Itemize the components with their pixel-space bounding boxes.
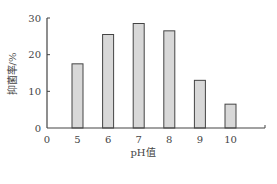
y-axis-label: 抑菌率/% (6, 53, 18, 96)
x-tick-label: 8 (166, 134, 172, 145)
bar-ph-5 (72, 64, 83, 128)
bar-ph-7 (133, 24, 144, 129)
x-axis-label: pH值 (130, 146, 155, 158)
y-axis: 0102030 (28, 13, 50, 134)
x-tick-label: 0 (44, 134, 50, 145)
bar-ph-9 (194, 80, 205, 128)
plot-area (72, 24, 236, 129)
bar-ph-8 (164, 31, 175, 128)
y-tick-label: 10 (28, 86, 41, 97)
x-tick-label: 5 (74, 134, 80, 145)
bar-ph-6 (103, 35, 114, 129)
bar-ph-10 (225, 104, 236, 128)
y-tick-label: 20 (28, 49, 41, 60)
x-tick-label: 7 (136, 134, 142, 145)
bar-chart: 0102030 05678910 pH值 抑菌率/% (0, 0, 277, 184)
x-axis: 05678910 (44, 125, 265, 145)
y-tick-label: 0 (35, 123, 41, 134)
x-tick-label: 6 (105, 134, 111, 145)
y-tick-label: 30 (28, 13, 41, 24)
x-tick-label: 9 (197, 134, 203, 145)
x-tick-label: 10 (224, 134, 237, 145)
